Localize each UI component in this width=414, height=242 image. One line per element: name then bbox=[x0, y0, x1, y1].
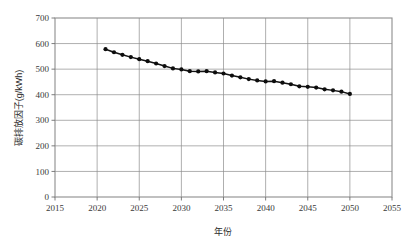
data-point bbox=[297, 84, 301, 88]
data-point bbox=[289, 82, 293, 86]
y-tick-label: 300 bbox=[36, 115, 50, 125]
data-point bbox=[221, 71, 225, 75]
y-tick-label: 0 bbox=[45, 192, 50, 202]
data-point bbox=[323, 87, 327, 91]
data-point bbox=[137, 57, 141, 61]
y-axis-title: 碳排放因子(g/kWh) bbox=[13, 70, 24, 147]
data-point bbox=[146, 59, 150, 63]
y-tick-label: 700 bbox=[36, 13, 50, 23]
data-point bbox=[306, 85, 310, 89]
x-tick-label: 2045 bbox=[299, 203, 318, 213]
y-tick-label: 400 bbox=[36, 90, 50, 100]
data-point bbox=[171, 66, 175, 70]
data-point bbox=[188, 69, 192, 73]
data-point bbox=[120, 53, 124, 57]
data-point bbox=[154, 61, 158, 65]
y-tick-label: 500 bbox=[36, 64, 50, 74]
y-tick-label: 100 bbox=[36, 167, 50, 177]
data-point bbox=[103, 47, 107, 51]
chart-container: 0100200300400500600700 20152020202520302… bbox=[0, 0, 414, 242]
x-axis-title: 年份 bbox=[214, 226, 232, 237]
data-point bbox=[238, 75, 242, 79]
emission-factor-line-chart: 0100200300400500600700 20152020202520302… bbox=[0, 0, 414, 242]
data-point bbox=[348, 92, 352, 96]
data-point bbox=[162, 64, 166, 68]
data-point bbox=[179, 67, 183, 71]
data-point bbox=[264, 79, 268, 83]
x-tick-label: 2015 bbox=[46, 203, 65, 213]
data-point bbox=[112, 50, 116, 54]
data-point bbox=[230, 73, 234, 77]
x-tick-label: 2030 bbox=[172, 203, 191, 213]
data-point bbox=[196, 69, 200, 73]
y-tick-label: 200 bbox=[36, 141, 50, 151]
data-point bbox=[280, 81, 284, 85]
data-point bbox=[331, 88, 335, 92]
data-point bbox=[272, 79, 276, 83]
data-point bbox=[255, 78, 259, 82]
x-tick-label: 2035 bbox=[215, 203, 234, 213]
x-tick-label: 2020 bbox=[88, 203, 107, 213]
data-point bbox=[205, 69, 209, 73]
x-tick-label: 2025 bbox=[130, 203, 149, 213]
data-point bbox=[314, 85, 318, 89]
x-tick-label: 2055 bbox=[383, 203, 402, 213]
x-tick-label: 2050 bbox=[341, 203, 360, 213]
x-tick-labels: 201520202025203020352040204520502055 bbox=[46, 203, 402, 213]
x-tick-label: 2040 bbox=[257, 203, 276, 213]
data-point bbox=[339, 90, 343, 94]
y-tick-label: 600 bbox=[36, 39, 50, 49]
data-point bbox=[129, 55, 133, 59]
data-point bbox=[247, 77, 251, 81]
data-point bbox=[213, 70, 217, 74]
